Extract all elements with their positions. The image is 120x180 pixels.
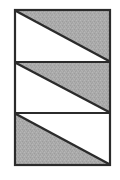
figure-container: Three-band diagonal shading figure A tal… [0,0,120,180]
diagonal-bands-figure: Three-band diagonal shading figure A tal… [0,0,120,180]
